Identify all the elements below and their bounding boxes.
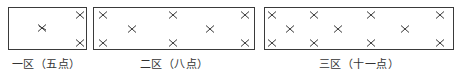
sample-point-x-icon (310, 11, 319, 19)
sample-point-x-icon (128, 25, 137, 33)
sample-point-x-icon (241, 39, 250, 47)
sample-point-x-icon (367, 11, 376, 19)
sample-point-x-icon (310, 39, 319, 47)
sample-point-x-icon (268, 11, 277, 19)
sample-point-x-icon (241, 11, 250, 19)
sample-point-x-icon (268, 39, 277, 47)
sample-point-x-icon (206, 25, 215, 33)
sample-point-x-icon (99, 11, 108, 19)
sample-point-x-icon (334, 25, 343, 33)
sample-point-x-icon (99, 39, 108, 47)
sample-point-x-icon (367, 39, 376, 47)
sample-point-x-icon (76, 11, 85, 19)
sample-point-x-icon (436, 11, 445, 19)
sample-point-x-icon (436, 39, 445, 47)
sample-point-x-icon (401, 25, 410, 33)
sample-point-x-icon (286, 25, 295, 33)
sample-point-x-icon (169, 11, 178, 19)
sample-point-x-icon (76, 39, 85, 47)
sample-point-x-icon (38, 24, 47, 32)
sample-point-x-icon (169, 39, 178, 47)
zone-2-label: 二区（八点） (140, 55, 209, 71)
zone-3-label: 三区（十一点） (319, 55, 400, 71)
zone-1-label: 一区（五点） (12, 55, 81, 71)
